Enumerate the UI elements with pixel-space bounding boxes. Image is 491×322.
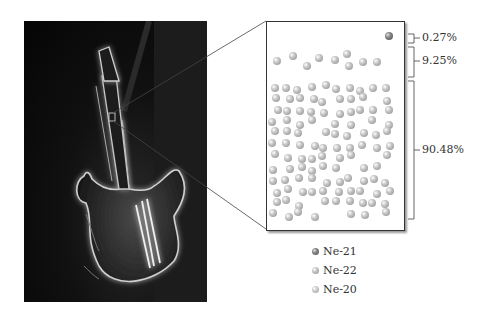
neon-atom bbox=[271, 84, 279, 92]
neon-atom bbox=[298, 163, 306, 171]
neon-atom bbox=[286, 95, 294, 103]
neon-atom bbox=[295, 174, 303, 182]
ne22-percentage: 9.25% bbox=[422, 55, 457, 67]
neon-atom bbox=[286, 165, 294, 173]
legend-label: Ne-20 bbox=[323, 283, 357, 296]
neon-atom bbox=[382, 208, 390, 216]
neon-atom bbox=[336, 178, 344, 186]
neon-atom bbox=[373, 162, 381, 170]
neon-atom bbox=[373, 58, 381, 66]
neon-atom bbox=[322, 81, 330, 89]
neon-atom bbox=[359, 199, 367, 207]
neon-atom bbox=[272, 94, 280, 102]
neon-atom bbox=[346, 84, 354, 92]
neon-atom bbox=[284, 154, 292, 162]
neon-atom bbox=[347, 121, 355, 129]
neon-atom bbox=[332, 164, 340, 172]
neon-atom bbox=[370, 175, 378, 183]
neon-atom bbox=[332, 85, 340, 93]
neon-atom bbox=[347, 108, 355, 116]
neon-atom bbox=[283, 107, 291, 115]
ne22-atom-icon bbox=[312, 267, 319, 274]
neon-atom bbox=[343, 132, 351, 140]
neon-atom bbox=[299, 188, 307, 196]
neon-atom bbox=[336, 95, 344, 103]
neon-atom bbox=[360, 177, 368, 185]
neon-atom bbox=[344, 174, 352, 182]
zoom-connector-lines bbox=[0, 0, 491, 322]
neon-atom bbox=[289, 52, 297, 60]
neon-atom bbox=[322, 128, 330, 136]
neon-atom bbox=[308, 155, 316, 163]
neon-atom bbox=[294, 129, 302, 137]
neon-atom bbox=[315, 54, 323, 62]
neon-atom bbox=[268, 118, 276, 126]
neon-atom bbox=[269, 177, 277, 185]
neon-atom bbox=[373, 190, 381, 198]
neon-atom bbox=[336, 110, 344, 118]
neon-atom bbox=[273, 198, 281, 206]
legend-label: Ne-22 bbox=[323, 264, 357, 277]
neon-atom bbox=[284, 185, 292, 193]
legend-item-ne20: Ne-20 bbox=[312, 283, 357, 296]
neon-atom bbox=[321, 197, 329, 205]
neon-atom bbox=[369, 106, 377, 114]
neon-atom bbox=[336, 154, 344, 162]
neon-atom bbox=[385, 106, 393, 114]
neon-atom bbox=[285, 213, 293, 221]
neon-atom bbox=[383, 97, 391, 105]
neon-atom bbox=[273, 57, 281, 65]
neon-atom bbox=[310, 95, 318, 103]
neon-atom bbox=[356, 106, 364, 114]
neon-atom bbox=[293, 86, 301, 94]
neon-atom bbox=[268, 139, 276, 147]
ne21-percentage: 0.27% bbox=[422, 32, 457, 44]
ne20-percentage: 90.48% bbox=[422, 144, 464, 156]
bracket-lines bbox=[408, 34, 420, 219]
neon-atom bbox=[318, 98, 326, 106]
neon-atom bbox=[298, 155, 306, 163]
neon-atom bbox=[360, 129, 368, 137]
neon-atom bbox=[308, 188, 316, 196]
neon-atom bbox=[282, 84, 290, 92]
neon-atom bbox=[358, 141, 366, 149]
neon-atom bbox=[319, 144, 327, 152]
neon-atom bbox=[360, 164, 368, 172]
neon-atom bbox=[331, 120, 339, 128]
neon-atom bbox=[346, 197, 354, 205]
neon-atom bbox=[332, 197, 340, 205]
neon-atom bbox=[331, 130, 339, 138]
neon-atom bbox=[335, 188, 343, 196]
neon-atom bbox=[308, 174, 316, 182]
neon-atom bbox=[282, 139, 290, 147]
neon-atom bbox=[382, 84, 390, 92]
neon-atom bbox=[368, 116, 376, 124]
neon-atom bbox=[274, 106, 282, 114]
neon-atom bbox=[281, 176, 289, 184]
neon-atom bbox=[345, 62, 353, 70]
neon-atom bbox=[296, 107, 304, 115]
neon-atom bbox=[383, 127, 391, 135]
legend-label: Ne-21 bbox=[323, 245, 357, 258]
neon-atom bbox=[347, 95, 355, 103]
neon-atom bbox=[368, 199, 376, 207]
neon-atom bbox=[271, 150, 279, 158]
neon-atom bbox=[296, 121, 304, 129]
neon-atom bbox=[269, 209, 277, 217]
legend-item-ne21: Ne-21 bbox=[312, 245, 357, 258]
neon-atom bbox=[383, 151, 391, 159]
neon-atom bbox=[303, 62, 311, 70]
neon-atom bbox=[294, 208, 302, 216]
neon-atom bbox=[319, 162, 327, 170]
neon-atom bbox=[283, 127, 291, 135]
neon-atom bbox=[347, 151, 355, 159]
neon-atom bbox=[372, 131, 380, 139]
neon-atom bbox=[269, 166, 277, 174]
neon-atom bbox=[356, 187, 364, 195]
zoom-source-square bbox=[109, 113, 115, 121]
neon-atom bbox=[320, 109, 328, 117]
neon-atom bbox=[333, 144, 341, 152]
neon-atom bbox=[311, 213, 319, 221]
neon-atom bbox=[271, 127, 279, 135]
neon-atom bbox=[369, 84, 377, 92]
